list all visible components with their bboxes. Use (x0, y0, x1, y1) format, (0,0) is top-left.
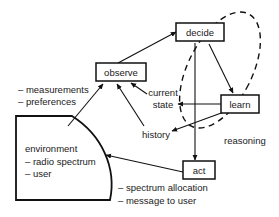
node-learn-label: learn (229, 99, 250, 110)
label-message-to-user: – message to user (118, 195, 196, 206)
reasoning-grouping-ellipse (163, 0, 277, 141)
label-current-state-line1: current (148, 87, 178, 98)
diagram-canvas: observe decide learn act – measurements … (0, 0, 279, 217)
node-learn[interactable]: learn (221, 95, 259, 113)
label-measurements: – measurements (18, 84, 89, 95)
node-act-label: act (193, 165, 206, 176)
node-observe-label: observe (104, 67, 138, 78)
label-reasoning: reasoning (224, 135, 266, 146)
node-act[interactable]: act (183, 161, 215, 179)
cognition-cycle-diagram: observe decide learn act – measurements … (0, 0, 279, 217)
node-decide-label: decide (186, 27, 214, 38)
edge-act-to-environment (106, 155, 183, 172)
edge-observe-to-decide (118, 32, 176, 63)
node-decide[interactable]: decide (176, 23, 224, 41)
edge-current-state-to-observe (131, 83, 147, 94)
label-environment: environment (25, 143, 78, 154)
edge-learn-to-history (172, 112, 224, 131)
label-radio-spectrum: – radio spectrum (25, 156, 96, 167)
label-current-state-line2: state (153, 99, 174, 110)
edge-history-to-observe (117, 84, 144, 126)
label-spectrum-allocation: – spectrum allocation (118, 182, 208, 193)
label-user: – user (25, 168, 51, 179)
node-observe[interactable]: observe (96, 63, 146, 81)
label-history: history (142, 129, 170, 140)
label-preferences: – preferences (18, 96, 76, 107)
edge-decide-to-learn (209, 44, 233, 93)
